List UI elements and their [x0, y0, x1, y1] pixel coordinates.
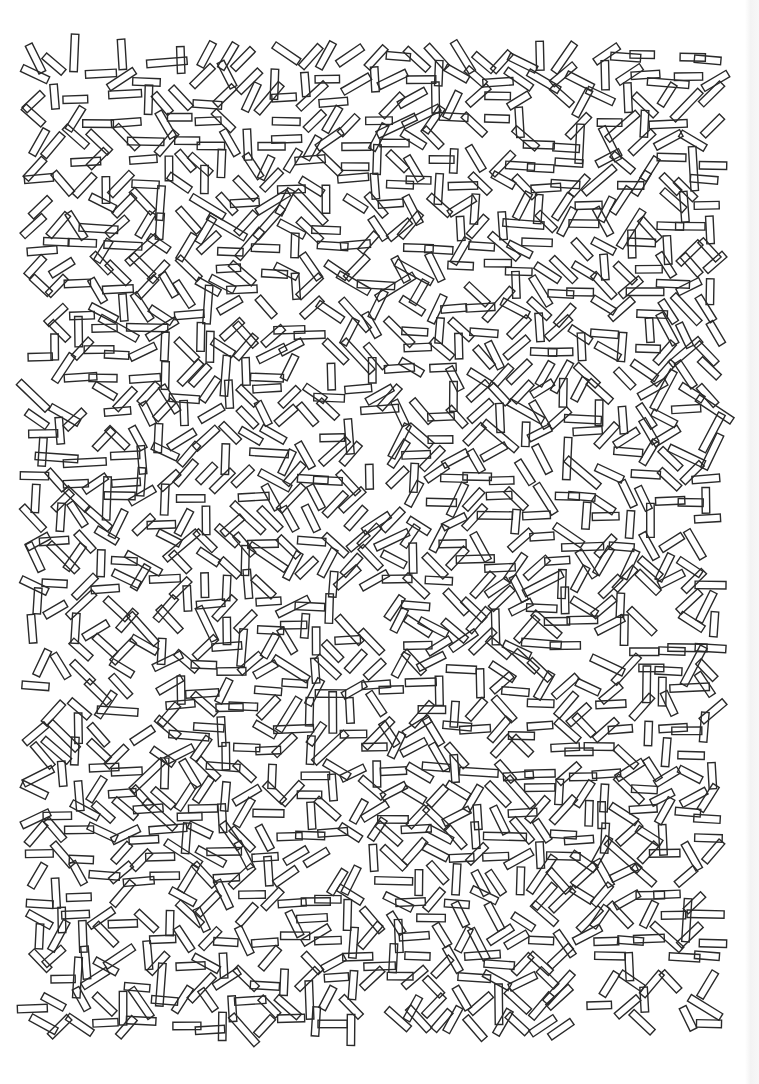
rectangle-outline [362, 312, 382, 339]
rectangle-outline [529, 936, 554, 945]
rectangle-outline [572, 261, 597, 280]
rectangle-outline [335, 614, 364, 645]
rectangle-outline [112, 797, 138, 821]
rectangle-outline [277, 627, 298, 655]
rectangle-outline [306, 736, 315, 765]
rectangle-outline [679, 383, 705, 403]
rectangle-outline [631, 470, 660, 479]
rectangle-outline [254, 82, 284, 115]
rectangle-outline [469, 242, 495, 251]
rectangle-outline [176, 962, 205, 971]
rectangle-outline [529, 1015, 557, 1037]
rectangle-outline [657, 222, 684, 230]
rectangle-outline [112, 478, 141, 487]
rectangle-outline [324, 973, 349, 982]
rectangle-outline [386, 466, 409, 489]
rectangle-outline [396, 898, 426, 907]
rectangle-outline [584, 743, 614, 751]
rectangle-outline [43, 237, 69, 246]
rectangle-outline [687, 995, 722, 1021]
rectangle-outline [283, 148, 302, 173]
rectangle-outline [687, 910, 724, 918]
rectangle-outline [344, 649, 367, 673]
rectangle-outline [212, 642, 242, 652]
rectangle-outline [31, 484, 40, 513]
rectangle-outline [443, 90, 462, 119]
rectangle-outline [399, 931, 429, 941]
rectangle-outline [357, 921, 383, 949]
rectangle-outline [362, 743, 387, 751]
rectangle-outline [278, 898, 306, 907]
rectangle-outline [46, 212, 71, 239]
rectangle-outline [35, 452, 78, 463]
rectangle-outline [147, 521, 176, 529]
rectangle-outline [661, 738, 671, 767]
rectangle-outline [312, 730, 349, 765]
rectangle-outline [42, 579, 67, 588]
rectangle-outline [28, 196, 52, 219]
rectangle-outline [343, 953, 373, 961]
rectangle-outline [197, 41, 216, 69]
rectangle-outline [402, 451, 431, 460]
rectangle-outline [278, 449, 296, 476]
rectangle-outline [635, 485, 653, 511]
rectangle-outline [550, 830, 576, 839]
rectangle-outline [93, 1018, 118, 1027]
rectangle-outline [250, 981, 279, 990]
rectangle-outline [223, 617, 231, 644]
rectangle-outline [66, 893, 91, 901]
rectangle-outline [191, 660, 217, 669]
rectangle-outline [679, 1006, 697, 1032]
rectangle-outline [571, 565, 590, 593]
rectangle-outline [459, 724, 490, 734]
rectangle-outline [470, 571, 496, 599]
rectangle-outline [661, 911, 685, 919]
rectangle-outline [23, 156, 47, 181]
rectangle-outline [629, 1010, 655, 1035]
rectangle-outline [177, 359, 203, 386]
rectangle-outline [380, 767, 406, 776]
rectangle-outline [484, 259, 511, 267]
rectangle-outline [238, 427, 263, 446]
rectangle-outline [441, 304, 467, 314]
rectangle-outline [406, 176, 431, 184]
rectangle-outline [192, 635, 218, 660]
rectangle-outline [690, 174, 718, 184]
rectangle-outline [111, 556, 137, 565]
rectangle-outline [387, 439, 410, 468]
rectangle-outline [336, 271, 371, 295]
rectangle-outline [611, 653, 641, 685]
rectangle-outline [111, 451, 140, 460]
rectangle-outline [695, 581, 726, 589]
rectangle-outline [387, 972, 413, 980]
rectangle-outline [428, 436, 453, 444]
rectangle-outline [677, 765, 703, 783]
rectangle-outline [569, 220, 599, 228]
rectangle-outline [600, 784, 609, 812]
rectangle-outline [548, 1018, 575, 1040]
rectangle-outline [363, 658, 386, 680]
rectangle-outline [232, 784, 261, 806]
rectangle-outline [167, 428, 197, 451]
rectangle-outline [201, 165, 209, 193]
rectangle-outline [401, 965, 428, 989]
rectangle-outline [129, 252, 156, 279]
rectangle-outline [91, 584, 119, 594]
rectangle-outline [640, 110, 649, 137]
rectangle-outline [156, 529, 182, 547]
rectangle-outline [173, 926, 194, 953]
rectangle-outline [614, 447, 643, 457]
rectangle-outline [455, 926, 474, 952]
rectangle-outline [104, 241, 142, 250]
rectangle-outline [347, 1014, 355, 1045]
rectangle-outline [699, 162, 726, 170]
rectangle-outline [296, 402, 318, 427]
rectangle-outline [636, 345, 661, 353]
rectangle-outline [166, 910, 174, 935]
rectangle-outline [415, 870, 423, 896]
rectangle-outline [399, 358, 425, 377]
rectangle-outline [33, 649, 52, 678]
rectangle-outline [679, 130, 708, 151]
rectangle-outline [65, 105, 86, 132]
rectangle-outline [285, 910, 304, 938]
